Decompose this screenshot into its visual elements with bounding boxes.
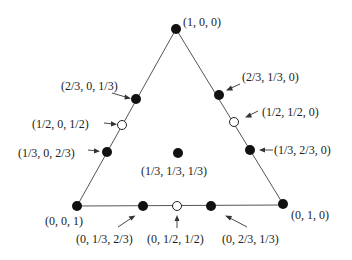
arrowhead-icon bbox=[226, 86, 233, 91]
point-0-1_2-1_2 bbox=[173, 202, 182, 211]
label-1_2-0-1_2: (1/2, 0, 1/2) bbox=[32, 117, 89, 131]
label-0-1_3-2_3: (0, 1/3, 2/3) bbox=[76, 232, 133, 246]
simplex-diagram: (1, 0, 0) (2/3, 0, 1/3) (1/2, 0, 1/2) (1… bbox=[0, 0, 352, 260]
label-2_3-0-1_3: (2/3, 0, 1/3) bbox=[61, 79, 118, 93]
arrowhead-icon bbox=[125, 95, 132, 100]
arrowhead-icon bbox=[245, 113, 252, 118]
arrowhead-icon bbox=[94, 148, 100, 153]
edge-left bbox=[77, 29, 176, 206]
label-1_2-1_2-0: (1/2, 1/2, 0) bbox=[262, 105, 319, 119]
label-1_3-1_3-1_3: (1/3, 1/3, 1/3) bbox=[141, 164, 207, 178]
point-1-0-0 bbox=[171, 24, 181, 34]
triangle-edges bbox=[77, 29, 283, 206]
point-labels: (1, 0, 0) (2/3, 0, 1/3) (1/2, 0, 1/2) (1… bbox=[18, 15, 331, 246]
label-1-0-0: (1, 0, 0) bbox=[183, 15, 221, 29]
arrowhead-icon bbox=[259, 148, 265, 153]
points bbox=[72, 24, 288, 211]
label-1_3-2_3-0: (1/3, 2/3, 0) bbox=[274, 143, 331, 157]
point-0-0-1 bbox=[72, 201, 82, 211]
arrowhead-icon bbox=[175, 215, 180, 221]
label-0-2_3-1_3: (0, 2/3, 1/3) bbox=[222, 232, 279, 246]
label-0-1_2-1_2: (0, 1/2, 1/2) bbox=[147, 232, 204, 246]
point-0-1-0 bbox=[278, 199, 288, 209]
arrowhead-icon bbox=[111, 121, 117, 126]
point-1_3-2_3-0 bbox=[245, 145, 255, 155]
point-1_3-1_3-1_3 bbox=[173, 148, 183, 158]
point-2_3-0-1_3 bbox=[131, 94, 141, 104]
point-1_2-1_2-0 bbox=[230, 118, 239, 127]
label-0-1-0: (0, 1, 0) bbox=[291, 208, 329, 222]
label-0-0-1: (0, 0, 1) bbox=[45, 214, 83, 228]
label-2_3-1_3-0: (2/3, 1/3, 0) bbox=[242, 70, 299, 84]
point-0-2_3-1_3 bbox=[206, 201, 216, 211]
point-0-1_3-2_3 bbox=[138, 201, 148, 211]
label-1_3-0-2_3: (1/3, 0, 2/3) bbox=[18, 146, 75, 160]
point-2_3-1_3-0 bbox=[214, 90, 224, 100]
arrowhead-icon bbox=[225, 216, 232, 221]
point-1_2-0-1_2 bbox=[118, 121, 127, 130]
point-1_3-0-2_3 bbox=[102, 147, 112, 157]
